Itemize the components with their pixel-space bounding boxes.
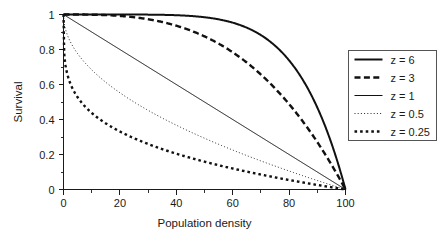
x-tick-label: 20	[114, 197, 126, 209]
legend: z = 6z = 3z = 1z = 0.5z = 0.25	[349, 51, 437, 141]
axes	[59, 14, 347, 195]
curve-series	[64, 15, 346, 190]
survival-curve-plot: 02040608010000.20.40.60.81 Population de…	[0, 0, 440, 237]
chart-figure: 02040608010000.20.40.60.81 Population de…	[0, 0, 440, 237]
legend-label: z = 1	[391, 90, 415, 102]
y-tick-label: 0.4	[39, 114, 54, 126]
tick-labels: 02040608010000.20.40.60.81	[39, 9, 354, 209]
legend-label: z = 6	[391, 54, 415, 66]
curve-z-1	[64, 15, 346, 190]
x-tick-label: 60	[227, 197, 239, 209]
y-tick-label: 0	[48, 184, 54, 196]
legend-label: z = 3	[391, 72, 415, 84]
x-tick-label: 40	[170, 197, 182, 209]
legend-label: z = 0.5	[391, 108, 424, 120]
x-axis-title: Population density	[158, 217, 252, 229]
y-axis-title: Survival	[12, 82, 24, 123]
legend-label: z = 0.25	[391, 126, 430, 138]
x-tick-label: 100	[336, 197, 354, 209]
y-tick-label: 0.8	[39, 44, 54, 56]
y-tick-label: 0.6	[39, 79, 54, 91]
x-tick-label: 80	[283, 197, 295, 209]
x-tick-label: 0	[60, 197, 66, 209]
y-tick-label: 0.2	[39, 149, 54, 161]
y-tick-label: 1	[48, 9, 54, 21]
